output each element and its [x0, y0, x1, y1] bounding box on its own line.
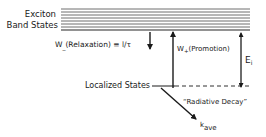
energy-gap-sub: i	[251, 59, 253, 66]
radiative-rate-label: kave	[200, 121, 217, 132]
radiative-decay-label: “Radiative Decay”	[183, 98, 247, 106]
exciton-diagram: Exciton Band States W_(Relaxation) ≡ l/τ…	[0, 0, 266, 137]
energy-gap-label: Ei	[245, 55, 253, 66]
rate-sub: ave	[204, 124, 217, 132]
promotion-label: W+(Promotion)	[177, 45, 230, 54]
relaxation-label: W_(Relaxation) ≡ l/τ	[55, 40, 132, 51]
relaxation-rest: (Relaxation) ≡ l/τ	[65, 40, 131, 49]
band-label-line1: Exciton	[25, 9, 56, 19]
promotion-rest: (Promotion)	[189, 45, 230, 53]
localized-states-label: Localized States	[85, 81, 150, 90]
exciton-band-lines	[61, 9, 250, 30]
band-label-line2: Band States	[7, 20, 59, 30]
